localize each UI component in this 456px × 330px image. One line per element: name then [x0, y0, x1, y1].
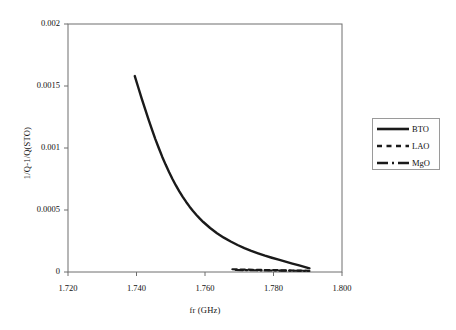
legend-swatch-dashed-icon: [376, 141, 410, 151]
x-tick-label: 1.740: [112, 283, 162, 293]
y-tick-label: 0.0015: [16, 80, 60, 90]
chart-figure: 1/Q-1/Q(STO) fr (GHz) 00.00050.0010.0015…: [0, 0, 456, 330]
chart-legend: BTOLAOMgO: [372, 118, 440, 170]
x-axis-title: fr (GHz): [140, 305, 270, 315]
legend-label: LAO: [412, 141, 429, 151]
y-axis-title: 1/Q-1/Q(STO): [22, 98, 32, 208]
x-tick-label: 1.800: [317, 283, 367, 293]
y-tick-label: 0: [16, 266, 60, 276]
legend-label: BTO: [412, 124, 429, 134]
legend-item-mgo[interactable]: MgO: [373, 154, 441, 171]
y-tick-label: 0.0005: [16, 204, 60, 214]
x-tick-label: 1.780: [249, 283, 299, 293]
y-tick-label: 0.002: [16, 18, 60, 28]
y-tick-label: 0.001: [16, 142, 60, 152]
legend-swatch-dashdot-icon: [376, 158, 410, 168]
x-tick-label: 1.760: [180, 283, 230, 293]
legend-item-lao[interactable]: LAO: [373, 137, 441, 154]
series-line-mgo: [236, 270, 310, 271]
legend-swatch-solid-icon: [376, 124, 410, 134]
x-tick-label: 1.720: [43, 283, 93, 293]
legend-label: MgO: [412, 158, 430, 168]
legend-item-bto[interactable]: BTO: [373, 120, 441, 137]
